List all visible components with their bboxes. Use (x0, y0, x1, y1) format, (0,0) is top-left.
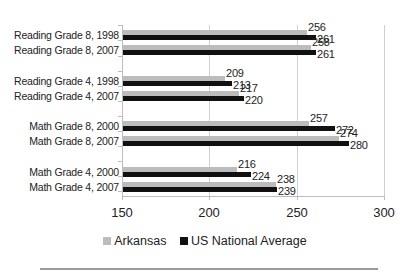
value-label: 258 (312, 37, 330, 48)
legend-label: US National Average (191, 234, 307, 248)
category-label: Reading Grade 4, 1998 (14, 75, 119, 87)
bar-us-average (123, 50, 316, 55)
bar-us-average (123, 35, 316, 40)
legend-swatch-us (180, 237, 188, 245)
category-label: Math Grade 4, 2000 (29, 166, 119, 178)
value-label: 217 (240, 83, 258, 94)
divider (40, 268, 378, 270)
category-label: Math Grade 8, 2007 (29, 135, 119, 147)
legend-swatch-arkansas (103, 237, 111, 245)
value-label: 257 (310, 113, 328, 124)
value-label: 238 (277, 174, 295, 185)
gridline (384, 25, 385, 196)
value-label: 224 (252, 171, 270, 182)
x-tick-label: 200 (198, 205, 220, 220)
x-axis (122, 196, 385, 197)
value-label: 216 (238, 159, 256, 170)
bar-us-average (123, 81, 232, 86)
value-label: 220 (245, 95, 263, 106)
category-label: Reading Grade 8, 1998 (14, 29, 119, 41)
category-label: Math Grade 8, 2000 (29, 120, 119, 132)
legend-label: Arkansas (114, 234, 166, 248)
legend-item-arkansas: Arkansas (103, 234, 166, 248)
bar-us-average (123, 96, 244, 101)
category-label: Reading Grade 8, 2007 (14, 44, 119, 56)
x-tick-label: 250 (286, 205, 308, 220)
bar-us-average (123, 126, 335, 131)
value-label: 261 (317, 49, 335, 60)
value-label: 209 (226, 68, 244, 79)
category-label: Reading Grade 4, 2007 (14, 90, 119, 102)
value-label: 239 (278, 186, 296, 197)
x-tick-label: 300 (373, 205, 395, 220)
bar-us-average (123, 172, 251, 177)
value-label: 274 (340, 128, 358, 139)
legend: Arkansas US National Average (0, 234, 410, 248)
bar-chart: Reading Grade 8, 1998Reading Grade 8, 20… (0, 0, 410, 272)
legend-item-us: US National Average (180, 234, 307, 248)
bar-us-average (123, 141, 349, 146)
value-label: 280 (350, 140, 368, 151)
category-label: Math Grade 4, 2007 (29, 181, 119, 193)
x-tick-label: 150 (111, 205, 133, 220)
bar-us-average (123, 187, 277, 192)
value-label: 256 (308, 22, 326, 33)
